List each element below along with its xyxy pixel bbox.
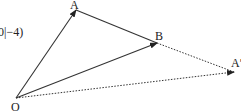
segment-BA-prime	[157, 43, 234, 72]
point-A-prime-label: A′	[231, 57, 241, 69]
diagram-canvas	[0, 0, 241, 112]
vector-OA	[16, 10, 76, 98]
vector-OB	[16, 43, 157, 98]
point-B-label: B	[155, 30, 163, 42]
point-A-label: A	[70, 0, 79, 11]
coordinate-fragment-label: 0|−4)	[0, 26, 23, 38]
segment-AB	[76, 10, 157, 43]
point-O-label: O	[11, 101, 20, 112]
